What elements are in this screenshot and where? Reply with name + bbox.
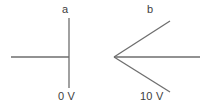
panel-a-lines [11,18,69,88]
panel-b-arm-lower-right [114,57,170,92]
panel-b-voltage-label: 10 V [140,91,163,102]
diagram-figure: a b 0 V 10 V [0,0,207,111]
panel-b-lines [114,21,200,92]
panel-b-label: b [147,4,153,15]
panel-b-arm-upper-right [114,21,170,57]
panel-a-label: a [62,4,68,15]
panel-a-voltage-label: 0 V [58,91,75,102]
diagram-canvas [0,0,207,111]
